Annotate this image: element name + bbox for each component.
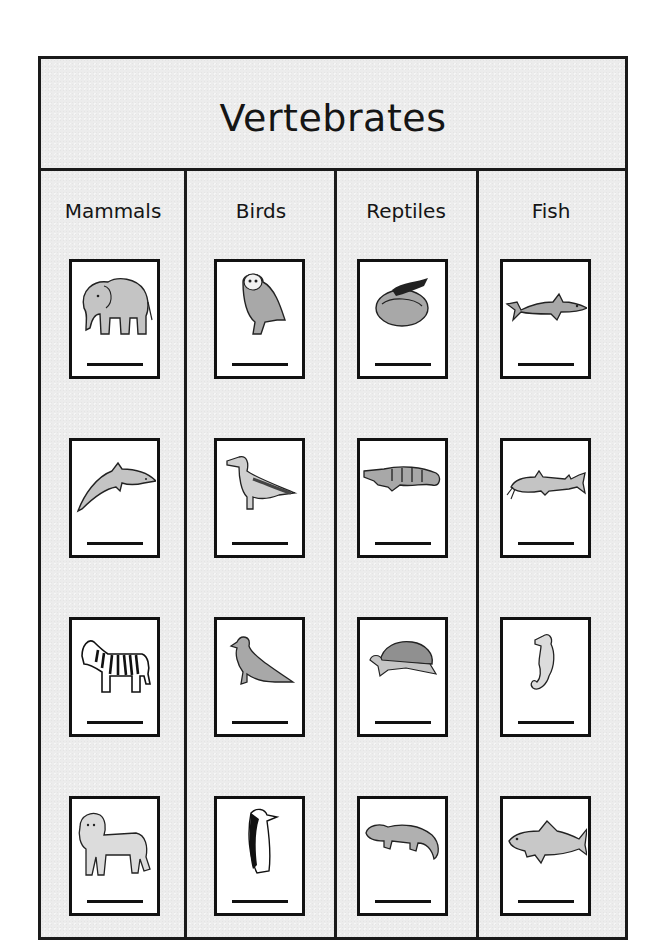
answer-blank[interactable] [232,363,288,366]
alligator-icon [362,447,444,521]
animal-card-owl [214,259,305,379]
answer-blank[interactable] [518,542,574,545]
elephant-icon [74,268,156,342]
owl-icon [219,268,301,342]
dolphin-icon [74,447,156,521]
column-label-reptiles: Reptiles [366,199,446,223]
column-label-birds: Birds [236,199,286,223]
answer-blank[interactable] [232,721,288,724]
carp-icon [505,805,587,879]
answer-blank[interactable] [375,542,431,545]
worksheet-header: Vertebrates [41,59,625,171]
column-label-mammals: Mammals [65,199,162,223]
column-divider [476,171,479,937]
animal-card-catfish [500,438,591,558]
answer-blank[interactable] [232,542,288,545]
animal-card-dolphin [69,438,160,558]
animal-card-albatross [214,438,305,558]
answer-blank[interactable] [87,363,143,366]
column-divider [184,171,187,937]
vertebrates-worksheet: Vertebrates Mammals Birds Reptiles Fish [38,56,628,940]
animal-card-lion [69,796,160,916]
answer-blank[interactable] [518,363,574,366]
answer-blank[interactable] [232,900,288,903]
answer-blank[interactable] [87,721,143,724]
animal-card-penguin [214,796,305,916]
animal-card-alligator [357,438,448,558]
pigeon-icon [219,626,301,700]
animal-card-seahorse [500,617,591,737]
animal-card-carp [500,796,591,916]
turtle-icon [362,626,444,700]
answer-blank[interactable] [518,721,574,724]
answer-blank[interactable] [375,363,431,366]
answer-blank[interactable] [375,900,431,903]
salamander-icon [362,805,444,879]
zebra-icon [74,626,156,700]
seahorse-icon [505,626,587,700]
shark-icon [505,268,587,342]
answer-blank[interactable] [87,900,143,903]
worksheet-title: Vertebrates [220,96,447,140]
animal-card-turtle [357,617,448,737]
answer-blank[interactable] [87,542,143,545]
animal-card-zebra [69,617,160,737]
animal-card-pigeon [214,617,305,737]
animal-card-salamander [357,796,448,916]
column-divider [334,171,337,937]
albatross-icon [219,447,301,521]
animal-card-shark [500,259,591,379]
penguin-icon [219,805,301,879]
lion-icon [74,805,156,879]
answer-blank[interactable] [375,721,431,724]
catfish-icon [505,447,587,521]
snake-icon [362,268,444,342]
answer-blank[interactable] [518,900,574,903]
animal-card-elephant [69,259,160,379]
column-label-fish: Fish [532,199,571,223]
animal-card-snake [357,259,448,379]
